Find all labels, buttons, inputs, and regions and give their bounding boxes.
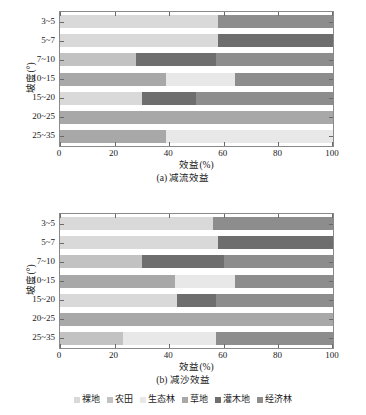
bar-segment-灌木地 bbox=[218, 34, 333, 47]
y-tick bbox=[329, 338, 333, 339]
bar-segment-经济林 bbox=[196, 92, 333, 105]
legend-item-3[interactable]: 草地 bbox=[182, 394, 208, 405]
x-tick-label: 0 bbox=[39, 148, 79, 158]
bar-b-20-25 bbox=[60, 313, 333, 326]
bar-segment-生态林 bbox=[123, 332, 216, 345]
y-tick-label: 5~7 bbox=[13, 35, 55, 45]
legend-swatch-icon bbox=[182, 397, 188, 403]
x-tick bbox=[60, 344, 61, 348]
y-tick bbox=[329, 98, 333, 99]
x-tick bbox=[278, 344, 279, 348]
x-tick bbox=[169, 344, 170, 348]
legend-item-5[interactable]: 经济林 bbox=[257, 394, 292, 405]
y-tick bbox=[60, 224, 64, 225]
plot-area-wrap-b bbox=[59, 213, 334, 349]
y-tick-label: 10~15 bbox=[13, 73, 55, 83]
x-tick bbox=[169, 214, 170, 218]
y-tick bbox=[60, 117, 64, 118]
x-tick-label: 40 bbox=[148, 350, 188, 360]
legend-item-0[interactable]: 裸地 bbox=[74, 394, 100, 405]
x-tick-label: 100 bbox=[312, 148, 352, 158]
x-tick-label: 60 bbox=[203, 148, 243, 158]
y-tick bbox=[60, 79, 64, 80]
bar-segment-生态林 bbox=[175, 275, 235, 288]
legend-swatch-icon bbox=[140, 397, 146, 403]
legend-swatch-icon bbox=[74, 397, 80, 403]
bar-segment-草地 bbox=[60, 275, 175, 288]
bar-segment-裸地 bbox=[60, 34, 218, 47]
bar-segment-生态林 bbox=[166, 73, 234, 86]
x-tick bbox=[224, 214, 225, 218]
legend-label: 草地 bbox=[190, 394, 208, 405]
subplot-b: 坡度(°) 效益(%) (b) 减沙效益 3~55~77~1010~1515~2… bbox=[0, 202, 366, 394]
bar-a-20-25 bbox=[60, 111, 333, 124]
y-tick bbox=[329, 319, 333, 320]
y-tick bbox=[60, 262, 64, 263]
bar-segment-灌木地 bbox=[142, 255, 224, 268]
legend-label: 生态林 bbox=[148, 394, 175, 405]
x-tick-label: 80 bbox=[257, 148, 297, 158]
x-axis-label-a: 效益(%) bbox=[59, 160, 334, 171]
legend-swatch-icon bbox=[107, 397, 113, 403]
x-tick-label: 40 bbox=[148, 148, 188, 158]
x-tick bbox=[224, 142, 225, 146]
y-tick-label: 5~7 bbox=[13, 237, 55, 247]
y-tick-label: 15~20 bbox=[13, 294, 55, 304]
y-tick-label: 25~35 bbox=[13, 130, 55, 140]
x-tick bbox=[115, 214, 116, 218]
x-tick bbox=[278, 12, 279, 16]
y-tick bbox=[329, 79, 333, 80]
subplot-caption-b: (b) 减沙效益 bbox=[0, 375, 366, 386]
bar-b-5-7 bbox=[60, 236, 333, 249]
legend-item-1[interactable]: 农田 bbox=[107, 394, 133, 405]
legend-item-2[interactable]: 生态林 bbox=[140, 394, 175, 405]
figure: 坡度(°) 效益(%) (a) 减流效益 3~55~77~1010~1515~2… bbox=[0, 0, 366, 415]
bar-segment-经济林 bbox=[218, 15, 333, 28]
legend-label: 灌木地 bbox=[223, 394, 250, 405]
plot-area-b bbox=[59, 213, 334, 349]
y-tick bbox=[329, 243, 333, 244]
y-tick bbox=[329, 22, 333, 23]
x-tick bbox=[224, 344, 225, 348]
y-tick bbox=[60, 243, 64, 244]
y-tick bbox=[60, 136, 64, 137]
y-tick bbox=[60, 98, 64, 99]
bar-segment-裸地 bbox=[60, 15, 218, 28]
x-tick bbox=[332, 12, 333, 16]
x-tick bbox=[115, 344, 116, 348]
bar-segment-经济林 bbox=[224, 255, 333, 268]
y-tick bbox=[60, 41, 64, 42]
legend-item-4[interactable]: 灌木地 bbox=[215, 394, 250, 405]
legend: 裸地农田生态林草地灌木地经济林 bbox=[0, 394, 366, 405]
y-tick bbox=[329, 41, 333, 42]
x-tick-label: 20 bbox=[94, 148, 134, 158]
bar-segment-灌木地 bbox=[136, 53, 215, 66]
legend-label: 农田 bbox=[115, 394, 133, 405]
y-tick-label: 15~20 bbox=[13, 92, 55, 102]
y-tick bbox=[329, 300, 333, 301]
x-tick bbox=[60, 142, 61, 146]
y-tick bbox=[329, 117, 333, 118]
bar-a-25-35 bbox=[60, 130, 333, 143]
bar-segment-农田 bbox=[60, 255, 142, 268]
x-tick bbox=[115, 142, 116, 146]
y-tick-label: 20~25 bbox=[13, 111, 55, 121]
y-tick-label: 7~10 bbox=[13, 256, 55, 266]
subplot-caption-a: (a) 减流效益 bbox=[0, 173, 366, 184]
y-tick bbox=[60, 338, 64, 339]
bar-segment-草地 bbox=[60, 313, 333, 326]
y-tick-label: 3~5 bbox=[13, 16, 55, 26]
x-tick-label: 60 bbox=[203, 350, 243, 360]
x-tick bbox=[115, 12, 116, 16]
y-tick bbox=[329, 224, 333, 225]
x-tick bbox=[278, 214, 279, 218]
legend-label: 裸地 bbox=[82, 394, 100, 405]
x-tick bbox=[169, 12, 170, 16]
subplot-a: 坡度(°) 效益(%) (a) 减流效益 3~55~77~1010~1515~2… bbox=[0, 0, 366, 200]
legend-swatch-icon bbox=[215, 397, 221, 403]
bar-a-5-7 bbox=[60, 34, 333, 47]
bar-b-15-20 bbox=[60, 294, 333, 307]
y-tick bbox=[60, 281, 64, 282]
bar-segment-生态林 bbox=[166, 130, 333, 143]
bar-segment-灌木地 bbox=[142, 92, 197, 105]
